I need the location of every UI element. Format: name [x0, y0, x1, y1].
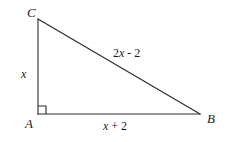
segment-cb	[38, 19, 200, 114]
side-label-variable: x	[21, 67, 26, 81]
vertex-label-a: A	[25, 117, 33, 130]
side-label-suffix: + 2	[108, 119, 127, 133]
vertex-label-b: B	[207, 112, 215, 125]
vertex-label-c: C	[27, 6, 36, 19]
right-angle-marker-icon	[38, 106, 46, 114]
side-label-hypotenuse: 2x - 2	[113, 47, 140, 59]
side-label-vertical-leg: x	[21, 68, 26, 80]
side-label-suffix: - 2	[124, 46, 140, 60]
right-triangle-figure: C A B x x + 2 2x - 2	[0, 0, 228, 142]
side-label-horizontal-leg: x + 2	[103, 120, 127, 132]
